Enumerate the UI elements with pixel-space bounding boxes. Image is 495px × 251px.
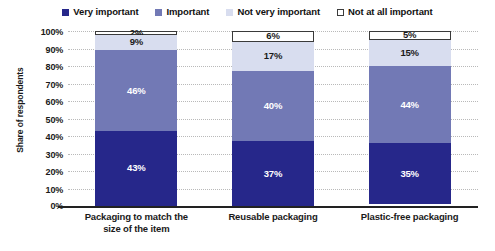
- y-axis-tick-label: 50%: [46, 115, 63, 125]
- bar-segment-value-label: 43%: [127, 163, 145, 173]
- category-label-line: Plastic-free packaging: [342, 211, 478, 223]
- bar-segment[interactable]: 17%: [232, 42, 314, 72]
- bar-column: 5%15%44%35%: [342, 31, 478, 206]
- plot-area: 100%90%80%70%60%50%40%30%20%10%0% 2%9%46…: [68, 31, 478, 206]
- bar-segment[interactable]: 15%: [369, 40, 451, 66]
- bar-segment[interactable]: 6%: [232, 31, 314, 42]
- legend-swatch-icon: [226, 9, 233, 16]
- bar-group: 2%9%46%43%6%17%40%37%5%15%44%35%: [68, 31, 478, 206]
- legend-item-label: Important: [166, 7, 209, 17]
- x-axis-category-label: Packaging to match thesize of the item: [68, 211, 204, 235]
- x-axis-line: [58, 206, 478, 208]
- y-axis-tick-label: 10%: [46, 185, 63, 195]
- y-axis-tick-label: 90%: [46, 45, 63, 55]
- legend-item-very-important[interactable]: Very important: [62, 7, 138, 17]
- stacked-bar-chart: Very important Important Not very import…: [0, 0, 495, 251]
- bar-segment-value-label: 40%: [264, 101, 282, 111]
- category-label-line: Packaging to match the: [68, 211, 204, 223]
- bar-segment[interactable]: 40%: [232, 71, 314, 141]
- bar-segment[interactable]: 9%: [95, 35, 177, 51]
- bar-segment[interactable]: 5%: [369, 31, 451, 40]
- y-axis-tick-label: 100%: [41, 27, 63, 37]
- legend-swatch-icon: [337, 9, 344, 16]
- chart-legend: Very important Important Not very import…: [0, 7, 495, 17]
- bar-segment[interactable]: 46%: [95, 50, 177, 131]
- bar-segment[interactable]: 35%: [369, 143, 451, 204]
- stacked-bar[interactable]: 5%15%44%35%: [369, 31, 451, 206]
- y-axis-tick-label: 20%: [46, 167, 63, 177]
- stacked-bar[interactable]: 6%17%40%37%: [232, 31, 314, 206]
- legend-swatch-icon: [62, 9, 69, 16]
- bar-segment-value-label: 17%: [264, 51, 282, 61]
- legend-item-label: Very important: [73, 7, 138, 17]
- bar-segment[interactable]: 37%: [232, 141, 314, 206]
- bar-column: 2%9%46%43%: [68, 31, 204, 206]
- y-axis-tick-label: 80%: [46, 62, 63, 72]
- category-label-line: size of the item: [68, 223, 204, 235]
- bar-segment-value-label: 37%: [264, 169, 282, 179]
- legend-item-not-very-important[interactable]: Not very important: [226, 7, 320, 17]
- bar-segment-value-label: 6%: [233, 31, 313, 41]
- x-axis-category-labels: Packaging to match thesize of the itemRe…: [68, 211, 478, 235]
- y-axis-tick-label: 30%: [46, 150, 63, 160]
- bar-segment[interactable]: 43%: [95, 131, 177, 206]
- bar-column: 6%17%40%37%: [205, 31, 341, 206]
- bar-segment-value-label: 44%: [400, 100, 418, 110]
- bar-segment[interactable]: 44%: [369, 66, 451, 143]
- y-axis-tick-label: 70%: [46, 80, 63, 90]
- stacked-bar[interactable]: 2%9%46%43%: [95, 31, 177, 206]
- legend-item-label: Not very important: [237, 7, 320, 17]
- legend-swatch-icon: [155, 9, 162, 16]
- bar-segment-value-label: 15%: [400, 48, 418, 58]
- x-axis-category-label: Plastic-free packaging: [342, 211, 478, 235]
- y-axis-tick-label: 40%: [46, 132, 63, 142]
- bar-segment-value-label: 9%: [130, 37, 143, 47]
- y-axis-title: Share of respondents: [15, 50, 25, 170]
- category-label-line: Reusable packaging: [205, 211, 341, 223]
- y-axis-tick-label: 60%: [46, 97, 63, 107]
- bar-segment-value-label: 35%: [400, 169, 418, 179]
- bar-segment-value-label: 46%: [127, 86, 145, 96]
- legend-item-not-at-all-important[interactable]: Not at all important: [337, 7, 433, 17]
- legend-item-label: Not at all important: [348, 7, 433, 17]
- legend-item-important[interactable]: Important: [155, 7, 209, 17]
- x-axis-category-label: Reusable packaging: [205, 211, 341, 235]
